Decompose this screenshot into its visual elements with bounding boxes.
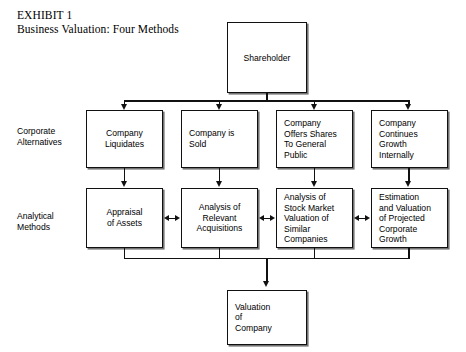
- node-analysis-relevant-acquisitions[interactable]: Analysis of Relevant Acquisitions: [181, 188, 258, 248]
- arrowhead-left-acquisitions-stockmarket: [259, 215, 264, 221]
- node-company-continues-growth[interactable]: Company Continues Growth Internally: [371, 110, 448, 168]
- node-company-liquidates[interactable]: Company Liquidates: [86, 110, 163, 168]
- row-label-analytical-methods: Analytical Methods: [17, 211, 54, 232]
- connector-sold-to-acquisitions: [219, 168, 221, 182]
- node-estimation-valuation-growth-label: Estimation and Valuation of Projected Co…: [379, 192, 444, 245]
- node-shareholder[interactable]: Shareholder: [227, 22, 307, 93]
- arrowhead-left-stockmarket-estimation: [354, 215, 359, 221]
- node-valuation-of-company[interactable]: Valuation of Company: [227, 290, 307, 345]
- connector-offers-to-stock-market: [314, 168, 316, 182]
- node-analysis-relevant-acquisitions-label: Analysis of Relevant Acquisitions: [182, 202, 257, 234]
- arrowhead-growth-to-estimation: [405, 181, 411, 187]
- node-analysis-stock-market-valuation-label: Analysis of Stock Market Valuation of Si…: [284, 192, 349, 245]
- node-appraisal-of-assets-label: Appraisal of Assets: [87, 207, 162, 228]
- exhibit-heading: EXHIBIT 1 Business Valuation: Four Metho…: [17, 8, 179, 36]
- node-company-is-sold-label: Company is Sold: [189, 128, 254, 149]
- row-label-corporate-alternatives: Corporate Alternatives: [17, 126, 62, 147]
- exhibit-title-text: Business Valuation: Four Methods: [17, 22, 179, 36]
- connector-growth-to-estimation: [408, 168, 410, 182]
- node-valuation-of-company-label: Valuation of Company: [235, 302, 303, 334]
- node-company-liquidates-label: Company Liquidates: [87, 128, 162, 149]
- node-company-offers-shares-label: Company Offers Shares To General Public: [284, 118, 349, 160]
- node-company-offers-shares[interactable]: Company Offers Shares To General Public: [276, 110, 353, 168]
- node-estimation-valuation-growth[interactable]: Estimation and Valuation of Projected Co…: [371, 188, 448, 248]
- connector-liquidates-to-appraisal: [124, 168, 126, 182]
- arrowhead-right-appraisal-acquisitions: [175, 215, 180, 221]
- arrowhead-offers-to-stock-market: [311, 181, 317, 187]
- node-shareholder-label: Shareholder: [228, 52, 306, 63]
- node-company-continues-growth-label: Company Continues Growth Internally: [379, 118, 444, 160]
- arrowhead-sold-to-acquisitions: [216, 181, 222, 187]
- arrowhead-right-stockmarket-estimation: [365, 215, 370, 221]
- arrowhead-right-acquisitions-stockmarket: [270, 215, 275, 221]
- node-company-is-sold[interactable]: Company is Sold: [181, 110, 258, 168]
- exhibit-number: EXHIBIT 1: [17, 8, 179, 22]
- node-appraisal-of-assets[interactable]: Appraisal of Assets: [86, 188, 163, 248]
- exhibit-diagram: EXHIBIT 1 Business Valuation: Four Metho…: [0, 0, 466, 352]
- arrowhead-liquidates-to-appraisal: [121, 181, 127, 187]
- node-analysis-stock-market-valuation[interactable]: Analysis of Stock Market Valuation of Si…: [276, 188, 353, 248]
- arrowhead-bus-to-valuation-of-company: [263, 281, 269, 287]
- arrowhead-left-appraisal-acquisitions: [164, 215, 169, 221]
- connector-top-bus: [124, 100, 410, 102]
- connector-bottom-bus-to-result: [266, 258, 268, 283]
